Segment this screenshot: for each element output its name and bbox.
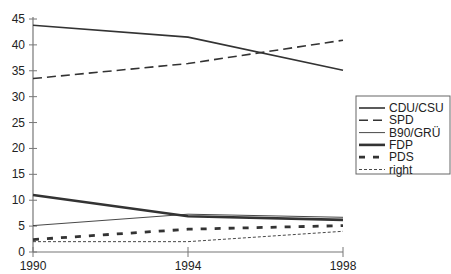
y-tick-label: 5 bbox=[18, 219, 25, 233]
y-tick-label: 25 bbox=[12, 116, 26, 130]
legend: CDU/CSUSPDB90/GRÜFDPPDSright bbox=[356, 96, 450, 177]
y-tick-label: 20 bbox=[12, 141, 26, 155]
y-tick-label: 40 bbox=[12, 38, 26, 52]
y-tick-label: 10 bbox=[12, 193, 26, 207]
x-tick-label: 1994 bbox=[175, 259, 202, 273]
y-tick-label: 30 bbox=[12, 90, 26, 104]
x-tick-label: 1998 bbox=[330, 259, 357, 273]
y-tick-label: 15 bbox=[12, 167, 26, 181]
series-lines bbox=[33, 25, 343, 241]
line-chart: 051015202530354045199019941998 CDU/CSUSP… bbox=[0, 0, 451, 274]
y-tick-label: 35 bbox=[12, 64, 26, 78]
series-line-spd bbox=[33, 40, 343, 78]
y-tick-label: 0 bbox=[18, 245, 25, 259]
legend-label: right bbox=[389, 163, 413, 177]
y-tick-label: 45 bbox=[12, 12, 26, 26]
series-line-pds bbox=[33, 226, 343, 240]
x-tick-label: 1990 bbox=[20, 259, 47, 273]
